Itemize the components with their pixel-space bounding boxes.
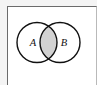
- figure-canvas: A B: [0, 0, 97, 85]
- venn-diagram: A B: [0, 0, 97, 85]
- set-label-b: B: [61, 37, 68, 48]
- set-label-a: A: [29, 37, 37, 48]
